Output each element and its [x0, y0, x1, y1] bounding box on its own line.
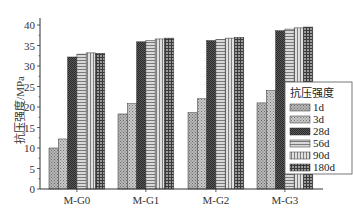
bar-m-g0-3d — [58, 139, 67, 189]
bar-m-g0-1d — [49, 148, 58, 189]
legend-swatch-180d — [290, 164, 310, 171]
legend-label-28d: 28d — [313, 125, 330, 137]
bar-m-g1-28d — [137, 42, 146, 189]
y-tick-label: 40 — [24, 19, 36, 31]
bar-m-g1-3d — [127, 104, 136, 189]
legend-title: 抗压强度 — [290, 86, 334, 99]
x-category-label: M-G2 — [202, 194, 229, 206]
legend-swatch-3d — [290, 116, 310, 123]
legend-label-56d: 56d — [313, 137, 330, 149]
x-category-label: M-G0 — [63, 194, 90, 206]
y-tick-label: 0 — [30, 183, 36, 195]
bars-layer — [49, 27, 313, 189]
bar-m-g0-90d — [86, 53, 95, 189]
x-category-label: M-G3 — [271, 194, 298, 206]
x-category-label: M-G1 — [132, 194, 159, 206]
bar-m-g2-28d — [207, 41, 216, 189]
bar-m-g2-90d — [225, 38, 234, 189]
bar-m-g1-90d — [155, 39, 164, 189]
bar-m-g2-3d — [197, 99, 206, 189]
y-tick-label: 30 — [24, 60, 36, 72]
legend-swatch-1d — [290, 104, 310, 111]
legend: 抗压强度 1d3d28d56d90d180d — [285, 82, 352, 174]
bar-chart: 0510152025303540 M-G0M-G1M-G2M-G3 抗压强度/M… — [0, 0, 353, 219]
legend-swatch-28d — [290, 128, 310, 135]
legend-label-90d: 90d — [313, 149, 330, 161]
legend-label-3d: 3d — [313, 113, 325, 125]
bar-m-g1-1d — [118, 114, 127, 189]
bar-m-g3-28d — [276, 31, 285, 189]
x-ticks: M-G0M-G1M-G2M-G3 — [63, 189, 298, 206]
bar-m-g0-180d — [96, 53, 105, 189]
bar-m-g2-56d — [216, 39, 225, 189]
bar-m-g3-1d — [257, 103, 266, 189]
legend-label-1d: 1d — [313, 101, 325, 113]
y-ticks: 0510152025303540 — [24, 19, 40, 195]
bar-m-g2-1d — [188, 113, 197, 189]
bar-m-g3-3d — [266, 91, 275, 189]
y-tick-label: 5 — [30, 163, 36, 175]
legend-swatch-56d — [290, 140, 310, 147]
legend-swatch-90d — [290, 152, 310, 159]
y-tick-label: 35 — [24, 40, 36, 52]
bar-m-g2-180d — [235, 37, 244, 189]
y-axis-label: 抗压强度/MPa — [13, 76, 26, 144]
bar-m-g0-56d — [77, 54, 86, 189]
bar-m-g1-180d — [165, 38, 174, 189]
bar-m-g1-56d — [146, 41, 155, 189]
bar-m-g0-28d — [68, 57, 77, 189]
legend-label-180d: 180d — [313, 161, 336, 173]
